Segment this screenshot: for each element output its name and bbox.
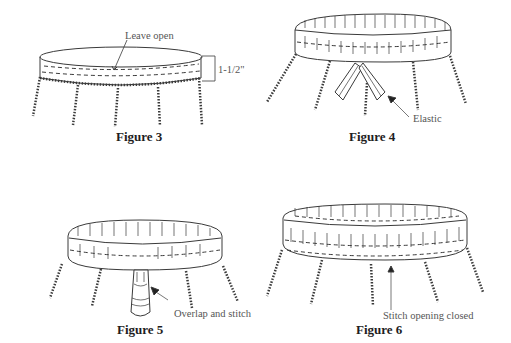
height-measurement-label: 1-1/2" xyxy=(218,64,244,75)
figure-6-caption: Figure 6 xyxy=(356,322,402,338)
figure-4-caption: Figure 4 xyxy=(349,129,395,145)
figure-5-caption: Figure 5 xyxy=(117,322,163,338)
stitch-opening-closed-label: Stitch opening closed xyxy=(383,310,473,321)
elastic-insertion-drawing xyxy=(255,0,511,172)
figure-3-caption: Figure 3 xyxy=(116,129,162,145)
figure-6: Stitch opening closed Figure 6 xyxy=(255,172,511,343)
waistband-casing-drawing xyxy=(0,0,256,172)
elastic-label: Elastic xyxy=(413,113,442,124)
overlap-and-stitch-label: Overlap and stitch xyxy=(174,308,251,319)
figure-4: Elastic Figure 4 xyxy=(255,0,511,172)
figure-3: Leave open 1-1/2" Figure 3 xyxy=(0,0,256,172)
figure-5: Overlap and stitch Figure 5 xyxy=(0,172,256,343)
leave-open-label: Leave open xyxy=(125,30,174,41)
